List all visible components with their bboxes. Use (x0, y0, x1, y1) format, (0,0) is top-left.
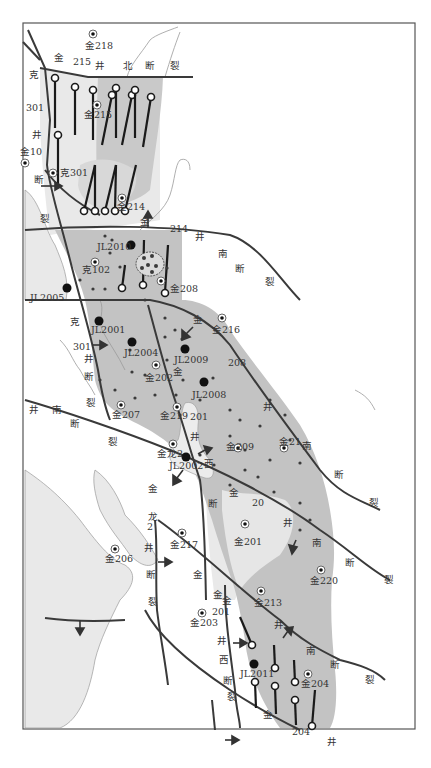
svg-text:克: 克 (29, 69, 39, 80)
well-label-jin208: 金208 (170, 283, 198, 294)
svg-text:201: 201 (212, 606, 230, 617)
svg-text:金: 金 (54, 52, 64, 63)
well-label-jin204: 金204 (301, 678, 329, 689)
svg-text:214: 214 (170, 223, 188, 234)
svg-text:井: 井 (84, 353, 94, 364)
svg-text:金: 金 (148, 483, 158, 494)
svg-text:金: 金 (193, 569, 203, 580)
svg-text:裂: 裂 (369, 497, 379, 508)
svg-text:南: 南 (302, 440, 312, 451)
well-label-jin213: 金213 (254, 597, 282, 608)
svg-text:204: 204 (292, 726, 310, 737)
well-label-jl2009: JL2009 (173, 354, 208, 365)
svg-text:克: 克 (70, 316, 80, 327)
svg-text:金: 金 (193, 314, 203, 325)
well-label-jin207: 金207 (112, 409, 140, 420)
svg-text:金: 金 (173, 366, 183, 377)
svg-text:金: 金 (263, 709, 273, 720)
well-label-jin201: 金201 (234, 536, 262, 547)
svg-text:断: 断 (223, 675, 233, 686)
svg-text:断: 断 (34, 174, 44, 185)
svg-text:断: 断 (330, 659, 340, 670)
svg-text:断: 断 (334, 469, 344, 480)
svg-text:井: 井 (29, 404, 39, 415)
svg-text:断: 断 (146, 569, 156, 580)
svg-text:断: 断 (235, 263, 245, 274)
svg-text:金: 金 (229, 487, 239, 498)
svg-text:北: 北 (123, 60, 133, 71)
well-label-jin209: 金209 (226, 441, 254, 452)
well-label-jl2001: JL2001 (90, 324, 125, 335)
svg-text:断: 断 (84, 371, 94, 382)
svg-text:井: 井 (144, 542, 154, 553)
well-label-jin216: 金216 (212, 324, 240, 335)
svg-text:裂: 裂 (227, 691, 237, 702)
well-label-jl2005: JL2005 (29, 292, 64, 303)
well-label-jl2008: JL2008 (191, 389, 226, 400)
well-label-jl2002: JL2002 (168, 460, 203, 471)
well-label-jin206: 金206 (105, 553, 133, 564)
hachure-zone (136, 252, 164, 276)
svg-text:裂: 裂 (365, 674, 375, 685)
svg-text:井: 井 (95, 60, 105, 71)
svg-text:西: 西 (204, 458, 214, 469)
well-label-jin202: 金202 (145, 372, 173, 383)
svg-text:断: 断 (70, 418, 80, 429)
svg-text:301: 301 (26, 102, 44, 113)
fault-well-map: 金218 金215 金10 克301 金214 JL2010 克102 金208… (0, 0, 431, 768)
well-label-jin217: 金217 (170, 539, 198, 550)
well-label-jin219: 金219 (160, 410, 188, 421)
svg-text:井: 井 (283, 517, 293, 528)
well-label-ke102: 克102 (82, 264, 110, 275)
svg-text:裂: 裂 (40, 213, 50, 224)
well-label-jin10: 金10 (20, 146, 42, 157)
svg-text:金: 金 (222, 595, 232, 606)
well-label-jin203: 金203 (190, 617, 218, 628)
svg-text:215: 215 (73, 56, 91, 67)
svg-text:南: 南 (306, 645, 316, 656)
svg-text:208: 208 (228, 357, 246, 368)
svg-text:301: 301 (73, 341, 91, 352)
svg-text:断: 断 (208, 498, 218, 509)
well-label-jl2004: JL2004 (123, 347, 158, 358)
svg-text:裂: 裂 (108, 436, 118, 447)
well-label-jin218: 金218 (85, 40, 113, 51)
svg-text:井: 井 (274, 619, 284, 630)
svg-text:井: 井 (327, 736, 337, 747)
well-label-jin21: 金21 (279, 436, 301, 447)
svg-text:西: 西 (219, 654, 229, 665)
svg-text:井: 井 (263, 401, 273, 412)
svg-text:井: 井 (217, 635, 227, 646)
svg-text:井: 井 (190, 431, 200, 442)
svg-text:井: 井 (195, 231, 205, 242)
svg-text:201: 201 (190, 411, 208, 422)
svg-text:裂: 裂 (265, 276, 275, 287)
svg-text:裂: 裂 (148, 596, 158, 607)
svg-text:裂: 裂 (384, 574, 394, 585)
svg-text:南: 南 (312, 537, 322, 548)
well-label-jin215: 金215 (84, 109, 112, 120)
svg-text:断: 断 (145, 60, 155, 71)
svg-text:金: 金 (140, 216, 150, 227)
svg-text:南: 南 (52, 404, 62, 415)
svg-text:20: 20 (252, 497, 264, 508)
well-label-ke301: 克301 (60, 167, 88, 178)
svg-text:断: 断 (345, 557, 355, 568)
well-label-jl2010: JL2010 (96, 241, 131, 252)
svg-text:裂: 裂 (170, 60, 180, 71)
well-label-jl2011: JL2011 (239, 668, 274, 679)
svg-text:南: 南 (218, 248, 228, 259)
svg-text:2: 2 (147, 521, 153, 532)
well-label-jin220: 金220 (310, 575, 338, 586)
svg-text:井: 井 (32, 129, 42, 140)
svg-text:裂: 裂 (86, 397, 96, 408)
well-label-jin214: 金214 (117, 201, 145, 212)
well-label-jinlong2: 金龙2 (157, 448, 183, 459)
